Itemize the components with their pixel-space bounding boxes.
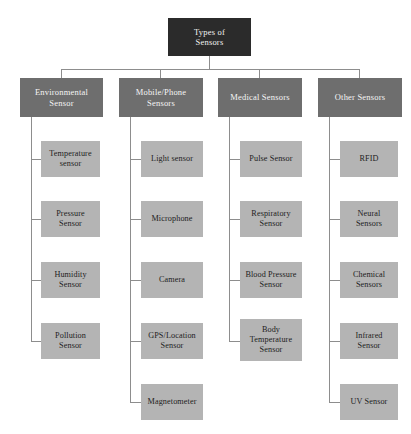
leaf-label-1-3: Humidity Sensor: [54, 270, 86, 290]
root-stem-connector: [209, 56, 210, 69]
leaf-node-body-temperature-sensor[interactable]: Body Temperature Sensor: [240, 319, 302, 361]
leaf-label-1-1: Temperature sensor: [49, 149, 91, 169]
leaf-node-temperature-sensor[interactable]: Temperature sensor: [41, 141, 100, 177]
leaf-stub-3-3: [229, 280, 240, 281]
leaf-node-neural-sensors[interactable]: Neural Sensors: [340, 201, 398, 237]
leaf-label-3-2: Respiratory Sensor: [251, 209, 290, 229]
leaf-label-2-4: GPS/Location Sensor: [148, 331, 196, 351]
leaf-stub-2-3: [130, 280, 141, 281]
category-drop-connector-2: [160, 69, 161, 78]
leaf-node-rfid[interactable]: RFID: [340, 141, 398, 177]
category-bus-connector: [61, 69, 360, 70]
leaf-stub-4-1: [329, 159, 340, 160]
leaf-stub-2-5: [130, 402, 141, 403]
leaf-node-infrared-sensor[interactable]: Infrared Sensor: [340, 323, 398, 359]
leaf-label-2-5: Magnetometer: [148, 397, 197, 407]
leaf-node-respiratory-sensor[interactable]: Respiratory Sensor: [240, 201, 302, 237]
leaf-stub-1-3: [31, 280, 41, 281]
category-label-2: Mobile/Phone Sensors: [136, 87, 187, 108]
leaf-stub-2-4: [130, 341, 141, 342]
leaf-label-2-1: Light sensor: [151, 154, 193, 164]
category-drop-connector-3: [259, 69, 260, 78]
leaf-node-uv-sensor[interactable]: UV Sensor: [340, 384, 398, 420]
leaf-stub-4-4: [329, 341, 340, 342]
category-node-environmental-sensor[interactable]: Environmental Sensor: [20, 78, 103, 117]
leaf-node-microphone[interactable]: Microphone: [141, 201, 203, 237]
category-node-mobile-phone-sensors[interactable]: Mobile/Phone Sensors: [119, 78, 203, 117]
category-drop-connector-4: [359, 69, 360, 78]
leaf-label-3-3: Blood Pressure Sensor: [245, 270, 296, 290]
leaf-stub-4-5: [329, 402, 340, 403]
category-spine-1: [31, 117, 32, 342]
leaf-node-pressure-sensor[interactable]: Pressure Sensor: [41, 201, 100, 237]
category-label-1: Environmental Sensor: [35, 87, 88, 108]
leaf-label-3-4: Body Temperature Sensor: [250, 325, 292, 355]
leaf-stub-3-4: [229, 341, 240, 342]
leaf-label-4-5: UV Sensor: [351, 397, 388, 407]
leaf-stub-2-1: [130, 159, 141, 160]
leaf-node-humidity-sensor[interactable]: Humidity Sensor: [41, 262, 100, 298]
root-node-types-of-sensors[interactable]: Types of Sensors: [168, 18, 251, 56]
root-node-label: Types of Sensors: [194, 27, 225, 48]
leaf-label-4-2: Neural Sensors: [356, 209, 382, 229]
leaf-stub-1-4: [31, 341, 41, 342]
leaf-stub-4-3: [329, 280, 340, 281]
leaf-label-2-3: Camera: [159, 275, 185, 285]
leaf-label-1-2: Pressure Sensor: [56, 209, 85, 229]
leaf-node-chemical-sensors[interactable]: Chemical Sensors: [340, 262, 398, 298]
leaf-stub-2-2: [130, 219, 141, 220]
category-label-4: Other Sensors: [335, 92, 386, 102]
leaf-label-4-3: Chemical Sensors: [353, 270, 385, 290]
leaf-stub-4-2: [329, 219, 340, 220]
category-spine-3: [229, 117, 230, 342]
sensor-taxonomy-diagram: Types of Sensors Environmental Sensor Te…: [0, 0, 411, 434]
leaf-node-camera[interactable]: Camera: [141, 262, 203, 298]
category-node-other-sensors[interactable]: Other Sensors: [318, 78, 402, 117]
leaf-stub-3-1: [229, 159, 240, 160]
leaf-node-blood-pressure-sensor[interactable]: Blood Pressure Sensor: [240, 262, 302, 298]
leaf-label-4-4: Infrared Sensor: [355, 331, 382, 351]
leaf-label-4-1: RFID: [359, 154, 378, 164]
category-node-medical-sensors[interactable]: Medical Sensors: [218, 78, 302, 117]
leaf-stub-1-2: [31, 219, 41, 220]
leaf-node-pollution-sensor[interactable]: Pollution Sensor: [41, 323, 100, 359]
leaf-stub-1-1: [31, 159, 41, 160]
leaf-node-light-sensor[interactable]: Light sensor: [141, 141, 203, 177]
leaf-node-pulse-sensor[interactable]: Pulse Sensor: [240, 141, 302, 177]
category-label-3: Medical Sensors: [230, 92, 289, 102]
leaf-label-3-1: Pulse Sensor: [249, 154, 292, 164]
leaf-stub-3-2: [229, 219, 240, 220]
leaf-node-magnetometer[interactable]: Magnetometer: [141, 384, 203, 420]
leaf-label-1-4: Pollution Sensor: [55, 331, 86, 351]
category-drop-connector-1: [61, 69, 62, 78]
leaf-label-2-2: Microphone: [151, 214, 192, 224]
leaf-node-gps-location-sensor[interactable]: GPS/Location Sensor: [141, 323, 203, 359]
